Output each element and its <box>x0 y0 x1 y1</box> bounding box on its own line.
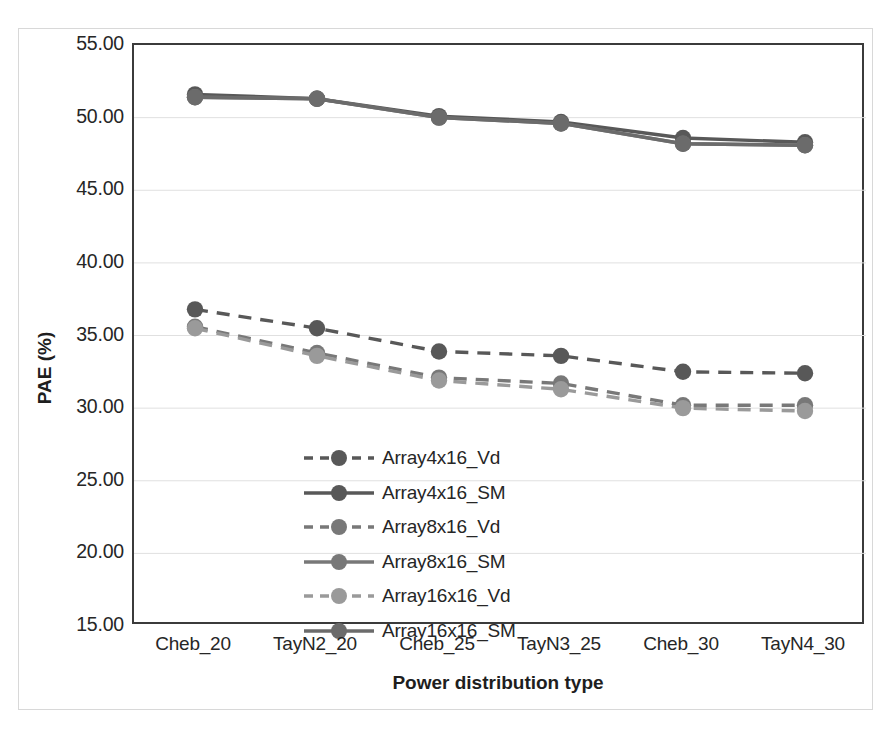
data-point <box>431 343 447 359</box>
data-point <box>797 137 813 153</box>
series-line <box>195 94 805 142</box>
y-tick-label: 40.00 <box>44 249 124 272</box>
data-point <box>553 115 569 131</box>
series-line <box>195 328 805 411</box>
series-Array8x16_Vd <box>187 319 813 414</box>
plot-area: Array4x16_VdArray4x16_SMArray8x16_VdArra… <box>132 43 864 624</box>
series-Array4x16_SM <box>187 86 813 150</box>
series-line <box>195 327 805 405</box>
x-tick-label: Cheb_30 <box>643 633 719 655</box>
legend-label: Array4x16_SM <box>382 482 505 504</box>
y-tick-label: 45.00 <box>44 177 124 200</box>
data-point <box>797 403 813 419</box>
legend-item-Array8x16_Vd[interactable]: Array8x16_Vd <box>302 510 562 545</box>
legend-key-swatch <box>302 517 376 537</box>
legend-key-swatch <box>302 552 376 572</box>
data-point <box>187 89 203 105</box>
y-axis-tick-labels: 55.0050.0045.0040.0035.0030.0025.0020.00… <box>44 43 124 624</box>
data-point <box>309 91 325 107</box>
legend-key-swatch <box>302 586 376 606</box>
data-point <box>309 348 325 364</box>
data-point <box>431 109 447 125</box>
y-tick-label: 25.00 <box>44 467 124 490</box>
series-Array4x16_Vd <box>187 301 813 381</box>
y-tick-label: 15.00 <box>44 613 124 636</box>
x-axis-tick-labels: Cheb_20TayN2_20Cheb_25TayN3_25Cheb_30Tay… <box>132 633 864 663</box>
series-line <box>195 309 805 373</box>
y-tick-label: 50.00 <box>44 104 124 127</box>
data-point <box>431 372 447 388</box>
legend-marker <box>331 588 347 604</box>
x-axis-title: Power distribution type <box>132 672 864 694</box>
data-point <box>797 365 813 381</box>
legend-marker <box>331 485 347 501</box>
legend-label: Array8x16_SM <box>382 551 505 573</box>
legend-key-swatch <box>302 483 376 503</box>
data-point <box>187 301 203 317</box>
chart-legend: Array4x16_VdArray4x16_SMArray8x16_VdArra… <box>302 441 562 648</box>
data-point <box>309 320 325 336</box>
legend-marker <box>331 519 347 535</box>
legend-item-Array4x16_Vd[interactable]: Array4x16_Vd <box>302 441 562 476</box>
data-point <box>675 364 691 380</box>
x-tick-label: TayN3_25 <box>517 633 601 655</box>
legend-item-Array8x16_SM[interactable]: Array8x16_SM <box>302 545 562 580</box>
y-tick-label: 35.00 <box>44 322 124 345</box>
legend-label: Array8x16_Vd <box>382 516 500 538</box>
x-tick-label: TayN2_20 <box>273 633 357 655</box>
data-point <box>553 381 569 397</box>
legend-item-Array16x16_Vd[interactable]: Array16x16_Vd <box>302 579 562 614</box>
series-Array16x16_SM <box>187 89 813 153</box>
legend-marker <box>331 554 347 570</box>
data-point <box>675 400 691 416</box>
legend-key-swatch <box>302 448 376 468</box>
legend-label: Array16x16_Vd <box>382 585 510 607</box>
data-point <box>675 136 691 152</box>
x-tick-label: TayN4_30 <box>761 633 845 655</box>
y-tick-label: 55.00 <box>44 32 124 55</box>
legend-item-Array4x16_SM[interactable]: Array4x16_SM <box>302 476 562 511</box>
data-point <box>553 348 569 364</box>
y-tick-label: 30.00 <box>44 395 124 418</box>
chart-figure: PAE (%) 55.0050.0045.0040.0035.0030.0025… <box>0 0 891 735</box>
legend-marker <box>331 450 347 466</box>
x-tick-label: Cheb_25 <box>399 633 475 655</box>
data-point <box>187 320 203 336</box>
y-tick-label: 20.00 <box>44 540 124 563</box>
x-tick-label: Cheb_20 <box>155 633 231 655</box>
legend-label: Array4x16_Vd <box>382 447 500 469</box>
